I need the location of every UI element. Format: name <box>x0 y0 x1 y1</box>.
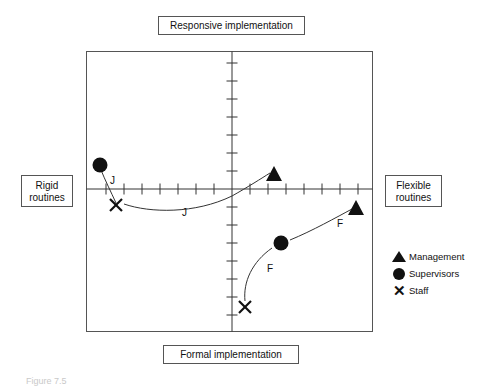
plot-frame <box>87 52 373 332</box>
legend-item-management: Management <box>389 248 481 265</box>
caption-left-rigid-routines: Rigid routines <box>21 175 73 207</box>
figure-number-caption: Figure 7.5 <box>26 376 67 386</box>
circle-icon <box>389 265 409 282</box>
legend-label-management: Management <box>409 251 464 262</box>
triangle-icon <box>389 248 409 265</box>
label-f-upper: F <box>337 218 343 229</box>
legend-label-supervisors: Supervisors <box>409 268 459 279</box>
label-f-lower: F <box>267 263 273 274</box>
marker-supervisors-f <box>274 236 289 251</box>
legend-item-staff: ✕ Staff <box>389 282 481 299</box>
legend-item-supervisors: Supervisors <box>389 265 481 282</box>
label-j-lower: J <box>182 207 187 218</box>
caption-bottom-formal-implementation: Formal implementation <box>163 345 299 364</box>
caption-right-flexible-routines: Flexible routines <box>385 175 442 207</box>
label-j-upper: J <box>110 175 115 186</box>
figure-container: J J F F Responsive implementation Formal… <box>0 0 484 386</box>
x-mark-icon: ✕ <box>389 282 409 299</box>
marker-supervisors-j <box>93 158 108 173</box>
caption-top-responsive-implementation: Responsive implementation <box>158 16 305 35</box>
chart-legend: Management Supervisors ✕ Staff <box>389 248 481 299</box>
legend-label-staff: Staff <box>409 285 428 296</box>
